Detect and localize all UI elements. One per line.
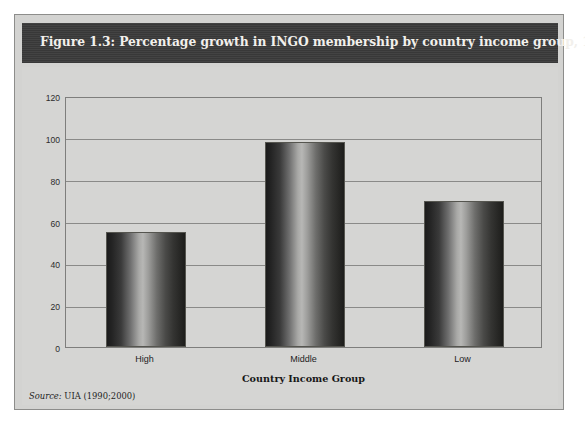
bar-high: [106, 232, 186, 347]
plot-area: 020406080100120: [65, 97, 542, 348]
source-text: UIA (1990;2000): [64, 391, 135, 401]
x-axis-tick-label-high: High: [65, 354, 224, 364]
y-axis-tick-label: 120: [46, 93, 60, 103]
y-axis-tick-label: 0: [55, 344, 60, 354]
figure-title-band: Figure 1.3: Percentage growth in INGO me…: [22, 23, 558, 63]
y-axis-tick-label: 20: [50, 302, 60, 312]
source-note: Source: UIA (1990;2000): [29, 391, 135, 401]
x-axis-tick-label-middle: Middle: [224, 354, 383, 364]
x-axis-title: Country Income Group: [65, 373, 542, 384]
bar-middle: [265, 142, 345, 347]
figure-container: Figure 1.3: Percentage growth in INGO me…: [14, 14, 564, 410]
y-axis-tick-label: 40: [50, 260, 60, 270]
chart-canvas: 020406080100120 HighMiddleLow Country In…: [22, 67, 558, 405]
x-axis-tick-label-low: Low: [383, 354, 542, 364]
y-axis-tick-label: 80: [50, 177, 60, 187]
gridline: [66, 139, 541, 140]
page-title: Figure 1.3: Percentage growth in INGO me…: [40, 34, 550, 49]
source-label: Source:: [29, 391, 62, 401]
bar-low: [424, 201, 504, 347]
y-axis-tick-label: 60: [50, 219, 60, 229]
y-axis-tick-label: 100: [46, 135, 60, 145]
